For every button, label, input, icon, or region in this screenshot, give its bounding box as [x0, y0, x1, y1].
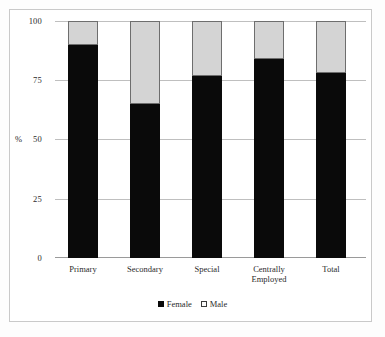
chart-container: 100 75 50 25 0 % [0, 0, 385, 337]
y-tick-label-100: 100 [12, 17, 42, 26]
chart-legend: Female Male [0, 300, 385, 309]
legend-swatch-female-icon [158, 301, 164, 307]
bar-segment-female-total[interactable] [316, 73, 346, 258]
legend-label-female: Female [167, 300, 192, 309]
y-tick-label-0: 0 [12, 254, 42, 263]
x-tick-label-centrally-employed-line2: Employed [226, 274, 312, 284]
y-tick-label-75: 75 [12, 76, 42, 85]
bar-segment-female-primary[interactable] [68, 45, 98, 258]
bar-segment-male-special[interactable] [192, 21, 222, 76]
x-tick-label-total: Total [288, 264, 374, 274]
bar-secondary[interactable] [130, 21, 160, 258]
bar-segment-female-secondary[interactable] [130, 104, 160, 258]
bar-special[interactable] [192, 21, 222, 258]
plot-area [55, 21, 366, 258]
legend-entry-female[interactable]: Female [158, 300, 192, 309]
legend-label-male: Male [210, 300, 227, 309]
bar-primary[interactable] [68, 21, 98, 258]
bar-segment-male-total[interactable] [316, 21, 346, 73]
bar-segment-female-special[interactable] [192, 76, 222, 258]
bar-segment-male-secondary[interactable] [130, 21, 160, 104]
y-axis-label: % [15, 135, 22, 144]
bar-segment-female-centrally-employed[interactable] [254, 59, 284, 258]
legend-entry-male[interactable]: Male [201, 300, 227, 309]
bar-total[interactable] [316, 21, 346, 258]
legend-swatch-male-icon [201, 301, 207, 307]
bar-segment-male-centrally-employed[interactable] [254, 21, 284, 59]
x-tick-label-total-line1: Total [288, 264, 374, 274]
bar-segment-male-primary[interactable] [68, 21, 98, 45]
bar-centrally-employed[interactable] [254, 21, 284, 258]
y-tick-label-25: 25 [12, 195, 42, 204]
